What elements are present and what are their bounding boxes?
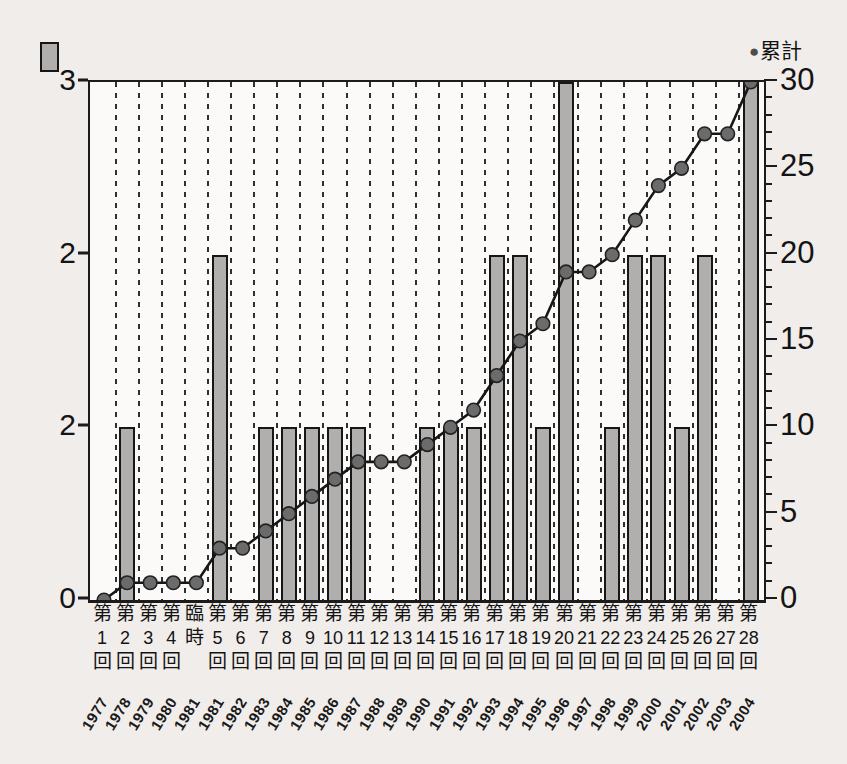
right-axis-minor-tick bbox=[764, 493, 772, 495]
right-axis-minor-tick bbox=[764, 269, 772, 271]
x-axis-label-part: 第 bbox=[620, 602, 646, 626]
x-axis-label-part: 第 bbox=[297, 602, 323, 626]
x-axis-label-part: 第 bbox=[274, 602, 300, 626]
right-axis-major-tick bbox=[764, 597, 777, 599]
x-axis-label-part: 第 bbox=[667, 602, 693, 626]
right-axis-minor-tick bbox=[764, 131, 772, 133]
x-axis-label: 第3回 bbox=[135, 602, 161, 674]
x-axis-label-part: 回 bbox=[89, 650, 115, 674]
bar bbox=[627, 255, 643, 600]
chart-page: ●累計 0223 051015202530 第1回第2回第3回第4回臨時第5回第… bbox=[0, 0, 847, 764]
x-axis-label-part: 第 bbox=[713, 602, 739, 626]
x-axis-label-part: 回 bbox=[667, 650, 693, 674]
x-axis-label-part: 第 bbox=[574, 602, 600, 626]
x-axis-label-part: 4 bbox=[158, 626, 184, 650]
right-axis-minor-tick bbox=[764, 355, 772, 357]
gridline bbox=[207, 82, 209, 600]
gridline bbox=[392, 82, 394, 600]
x-axis-label-part: 18 bbox=[505, 626, 531, 650]
gridline bbox=[646, 82, 648, 600]
bar bbox=[558, 82, 574, 600]
x-axis-label-part: 回 bbox=[412, 650, 438, 674]
bar bbox=[650, 255, 666, 600]
x-axis-label-part: 19 bbox=[528, 626, 554, 650]
right-axis-major-tick bbox=[764, 424, 777, 426]
x-axis-label-part: 16 bbox=[459, 626, 485, 650]
right-axis-label: 10 bbox=[780, 407, 836, 443]
x-axis-label-part: 回 bbox=[135, 650, 161, 674]
left-axis-label: 0 bbox=[34, 581, 76, 615]
bar bbox=[466, 427, 482, 600]
gridline bbox=[669, 82, 671, 600]
right-axis-label: 25 bbox=[780, 148, 836, 184]
right-axis-minor-tick bbox=[764, 459, 772, 461]
plot-area bbox=[88, 80, 766, 603]
x-axis-label-part: 回 bbox=[574, 650, 600, 674]
x-axis-label-part: 第 bbox=[89, 602, 115, 626]
x-axis-label: 第24回 bbox=[643, 602, 669, 674]
x-axis-label: 第17回 bbox=[482, 602, 508, 674]
right-axis-minor-tick bbox=[764, 234, 772, 236]
x-axis-label-part: 第 bbox=[482, 602, 508, 626]
gridline bbox=[738, 82, 740, 600]
bar bbox=[512, 255, 528, 600]
right-axis-minor-tick bbox=[764, 580, 772, 582]
x-axis-label-part: 15 bbox=[436, 626, 462, 650]
right-axis-minor-tick bbox=[764, 303, 772, 305]
x-axis-label-part: 回 bbox=[597, 650, 623, 674]
right-axis-major-tick bbox=[764, 165, 777, 167]
gridline bbox=[299, 82, 301, 600]
right-axis-minor-tick bbox=[764, 545, 772, 547]
bar bbox=[419, 427, 435, 600]
x-axis-label-part: 第 bbox=[643, 602, 669, 626]
right-axis-major-tick bbox=[764, 79, 777, 81]
x-axis-label: 第8回 bbox=[274, 602, 300, 674]
bar bbox=[535, 427, 551, 600]
x-axis-label-part: 第 bbox=[436, 602, 462, 626]
x-axis-label: 第2回 bbox=[112, 602, 138, 674]
right-axis-minor-tick bbox=[764, 114, 772, 116]
bar bbox=[443, 427, 459, 600]
right-axis-label: 15 bbox=[780, 321, 836, 357]
x-axis-label: 第5回 bbox=[205, 602, 231, 674]
x-axis-label-part: 12 bbox=[366, 626, 392, 650]
x-axis-label: 第10回 bbox=[320, 602, 346, 674]
x-axis-label-part: 14 bbox=[412, 626, 438, 650]
x-axis-label: 第27回 bbox=[713, 602, 739, 674]
x-axis-label-part: 第 bbox=[551, 602, 577, 626]
x-axis-label: 第23回 bbox=[620, 602, 646, 674]
x-axis-label-part: 第 bbox=[459, 602, 485, 626]
right-axis-major-tick bbox=[764, 338, 777, 340]
x-axis-label-part: 第 bbox=[228, 602, 254, 626]
x-axis-label: 第15回 bbox=[436, 602, 462, 674]
left-axis-tick bbox=[78, 597, 88, 600]
left-axis-tick bbox=[78, 251, 88, 254]
bar bbox=[697, 255, 713, 600]
x-axis-label-part: 26 bbox=[690, 626, 716, 650]
bar bbox=[604, 427, 620, 600]
gridline bbox=[415, 82, 417, 600]
line-legend-label: 累計 bbox=[760, 39, 802, 62]
x-axis-label-part: 1 bbox=[89, 626, 115, 650]
x-axis-label-part: 9 bbox=[297, 626, 323, 650]
gridline bbox=[577, 82, 579, 600]
x-axis-label-part: 回 bbox=[251, 650, 277, 674]
x-axis-label-part: 第 bbox=[412, 602, 438, 626]
x-axis-label-part: 回 bbox=[297, 650, 323, 674]
x-axis-label-part: 5 bbox=[205, 626, 231, 650]
x-axis-label-part: 回 bbox=[320, 650, 346, 674]
right-axis-minor-tick bbox=[764, 321, 772, 323]
gridline bbox=[438, 82, 440, 600]
x-axis-label-part: 17 bbox=[482, 626, 508, 650]
gridline bbox=[346, 82, 348, 600]
right-axis-label: 30 bbox=[780, 62, 836, 98]
x-axis-label-part: 3 bbox=[135, 626, 161, 650]
gridline bbox=[507, 82, 509, 600]
x-axis-label-part: 第 bbox=[366, 602, 392, 626]
x-axis-label: 第16回 bbox=[459, 602, 485, 674]
x-axis-label-part: 回 bbox=[713, 650, 739, 674]
x-axis-label-part: 回 bbox=[436, 650, 462, 674]
right-axis-minor-tick bbox=[764, 442, 772, 444]
bars-layer bbox=[90, 82, 764, 600]
x-axis-label-part: 10 bbox=[320, 626, 346, 650]
